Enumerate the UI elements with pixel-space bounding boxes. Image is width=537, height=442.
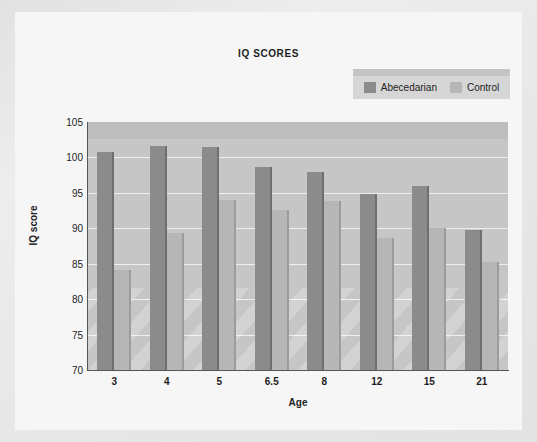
x-tick-label: 21 bbox=[462, 376, 502, 387]
y-axis-line bbox=[87, 122, 88, 371]
y-tick-label: 100 bbox=[53, 152, 83, 163]
y-tick-label: 70 bbox=[53, 365, 83, 376]
bars-layer bbox=[88, 122, 508, 370]
page-title: IQ SCORES bbox=[15, 48, 522, 59]
bar-control-6.5[interactable] bbox=[272, 210, 289, 370]
x-tick-label: 3 bbox=[94, 376, 134, 387]
bar-control-15[interactable] bbox=[429, 228, 446, 370]
bar-group bbox=[351, 122, 404, 370]
y-tick-label: 75 bbox=[53, 329, 83, 340]
bar-control-8[interactable] bbox=[324, 201, 341, 370]
x-tick-label: 5 bbox=[199, 376, 239, 387]
bar-abecedarian-5[interactable] bbox=[202, 147, 219, 370]
bar-group bbox=[298, 122, 351, 370]
plot-area bbox=[88, 122, 508, 370]
chart-figure: IQ SCORES Abecedarian Control 1051009590… bbox=[15, 12, 522, 430]
bar-group bbox=[88, 122, 141, 370]
y-axis-title: IQ score bbox=[28, 205, 39, 245]
bar-control-12[interactable] bbox=[377, 238, 394, 371]
y-tick-label: 80 bbox=[53, 294, 83, 305]
x-tick-label: 8 bbox=[304, 376, 344, 387]
bar-group bbox=[193, 122, 246, 370]
bar-abecedarian-4[interactable] bbox=[150, 146, 167, 370]
y-tick-label: 95 bbox=[53, 187, 83, 198]
legend-label-control: Control bbox=[467, 82, 499, 93]
y-tick-label: 90 bbox=[53, 223, 83, 234]
bar-group bbox=[246, 122, 299, 370]
bar-control-21[interactable] bbox=[482, 262, 499, 370]
bar-group bbox=[403, 122, 456, 370]
bar-group bbox=[141, 122, 194, 370]
bar-abecedarian-6.5[interactable] bbox=[255, 167, 272, 370]
x-tick-label: 12 bbox=[357, 376, 397, 387]
y-tick-label: 105 bbox=[53, 117, 83, 128]
bar-abecedarian-8[interactable] bbox=[307, 172, 324, 370]
bar-abecedarian-12[interactable] bbox=[360, 194, 377, 370]
legend-item-control[interactable]: Control bbox=[450, 82, 499, 93]
x-tick-label: 15 bbox=[409, 376, 449, 387]
y-tick-label: 85 bbox=[53, 258, 83, 269]
bar-abecedarian-15[interactable] bbox=[412, 186, 429, 370]
page-root: IQ SCORES Abecedarian Control 1051009590… bbox=[0, 0, 537, 442]
chart-legend: Abecedarian Control bbox=[353, 69, 510, 99]
legend-label-abecedarian: Abecedarian bbox=[381, 82, 437, 93]
bar-abecedarian-3[interactable] bbox=[97, 152, 114, 370]
bar-control-4[interactable] bbox=[167, 233, 184, 370]
x-tick-label: 6.5 bbox=[252, 376, 292, 387]
bar-group bbox=[456, 122, 509, 370]
legend-swatch-control bbox=[450, 82, 462, 93]
legend-item-abecedarian[interactable]: Abecedarian bbox=[364, 82, 437, 93]
x-tick-label: 4 bbox=[147, 376, 187, 387]
bar-control-5[interactable] bbox=[219, 200, 236, 370]
legend-swatch-abecedarian bbox=[364, 82, 376, 93]
y-axis-ticks: 105100959085807570 bbox=[51, 12, 83, 442]
x-axis-title: Age bbox=[88, 397, 508, 408]
x-axis-line bbox=[87, 370, 509, 371]
bar-abecedarian-21[interactable] bbox=[465, 230, 482, 370]
bar-control-3[interactable] bbox=[114, 270, 131, 370]
